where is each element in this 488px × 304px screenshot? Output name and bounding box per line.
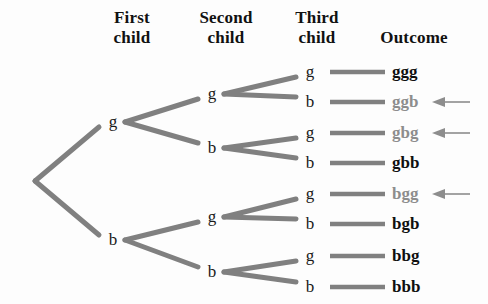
outcome-label-7: bbg (392, 247, 419, 265)
branch-second-4-to-third-1 (224, 261, 296, 272)
branch-group (35, 77, 296, 282)
branch-second-2-to-third-1 (224, 138, 296, 148)
node-third-child-6: b (301, 215, 319, 233)
outcome-connector-group (330, 72, 385, 287)
node-first-child-g: g (104, 113, 122, 131)
outcome-label-4: gbb (392, 154, 419, 172)
header-first-child: First child (100, 8, 164, 48)
node-third-child-3: g (301, 124, 319, 142)
outcome-label-6: bgb (392, 215, 419, 233)
highlight-arrow-head-5 (432, 189, 445, 199)
node-third-child-8: b (301, 278, 319, 296)
header-outcome: Outcome (362, 28, 466, 48)
branch-first-1-to-second-2 (125, 122, 198, 143)
branch-root-to-first-2 (35, 181, 99, 235)
outcome-label-3: gbg (392, 124, 418, 142)
node-second-child-b-1: b (203, 139, 221, 157)
branch-first-2-to-second-1 (125, 222, 198, 240)
outcome-label-5: bgg (392, 185, 418, 203)
node-third-child-1: g (301, 63, 319, 81)
branch-second-4-to-third-2 (224, 272, 296, 282)
branch-second-3-to-third-1 (224, 199, 296, 217)
branch-first-1-to-second-1 (125, 99, 198, 122)
node-first-child-b: b (104, 231, 122, 249)
outcome-label-8: bbb (392, 278, 420, 296)
node-second-child-b-2: b (203, 263, 221, 281)
header-third-child: Third child (284, 8, 350, 48)
node-third-child-5: g (301, 185, 319, 203)
highlight-arrow-head-3 (432, 128, 445, 138)
branch-root-to-first-1 (35, 127, 99, 181)
branch-second-2-to-third-2 (224, 148, 296, 158)
node-third-child-4: b (301, 154, 319, 172)
branch-first-2-to-second-2 (125, 240, 198, 267)
branch-second-3-to-third-2 (224, 217, 296, 219)
node-second-child-g-2: g (203, 208, 221, 226)
tree-diagram-figure: First child Second child Third child Out… (0, 0, 488, 304)
header-second-child: Second child (186, 8, 266, 48)
outcome-label-2: ggb (392, 93, 418, 111)
node-third-child-7: g (301, 247, 319, 265)
branch-second-1-to-third-2 (224, 94, 296, 97)
node-third-child-2: b (301, 93, 319, 111)
outcome-label-1: ggg (392, 63, 418, 81)
highlight-arrow-group (432, 97, 470, 199)
highlight-arrow-head-2 (432, 97, 445, 107)
node-second-child-g-1: g (203, 85, 221, 103)
branch-second-1-to-third-1 (224, 77, 296, 94)
